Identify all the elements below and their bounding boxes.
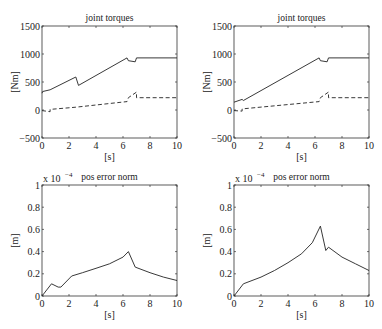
chart-panel-4: 024681000.20.40.60.81pos error norm[s][m… [201, 171, 374, 320]
y-axis-label: [Nm] [9, 71, 20, 93]
chart-title: joint torques [277, 13, 326, 23]
y-tick-label: 0.4 [220, 246, 233, 257]
data-series-line [234, 226, 369, 296]
x-tick-label: 8 [340, 140, 345, 151]
y-tick-label: 0 [35, 291, 40, 302]
chart-panel-1: 0246810−500050010001500joint torques[s][… [9, 13, 182, 162]
axes-box [42, 185, 177, 296]
figure: 0246810−500050010001500joint torques[s][… [0, 0, 382, 329]
x-tick-label: 2 [67, 298, 72, 309]
y-tick-label: 1000 [212, 49, 232, 60]
x-tick-label: 4 [286, 140, 291, 151]
x-tick-label: 6 [121, 140, 126, 151]
x-tick-label: 4 [94, 140, 99, 151]
y-tick-label: −500 [211, 133, 232, 144]
y-axis-label: [Nm] [201, 71, 212, 93]
axes-box [234, 26, 369, 138]
x-tick-label: 10 [172, 298, 182, 309]
chart-panel-3: 024681000.20.40.60.81pos error norm[s][m… [9, 171, 182, 320]
x-tick-label: 10 [172, 140, 182, 151]
x-tick-label: 4 [94, 298, 99, 309]
x-tick-label: 0 [232, 298, 237, 309]
y-tick-label: 1500 [20, 21, 40, 32]
y-tick-label: 0 [35, 105, 40, 116]
x-tick-label: 8 [340, 298, 345, 309]
x-tick-label: 0 [40, 298, 45, 309]
data-series-line [234, 58, 369, 102]
svg-text:−4: −4 [65, 171, 73, 179]
axes-box [42, 26, 177, 138]
chart-title: pos error norm [273, 172, 330, 182]
x-tick-label: 10 [364, 298, 374, 309]
x-tick-label: 8 [148, 298, 153, 309]
y-tick-label: 1 [35, 180, 40, 191]
chart-title: joint torques [85, 13, 134, 23]
chart-title: pos error norm [81, 172, 138, 182]
x-tick-label: 4 [286, 298, 291, 309]
y-tick-label: 0 [227, 105, 232, 116]
x-tick-label: 6 [313, 298, 318, 309]
x-tick-label: 0 [232, 140, 237, 151]
x-tick-label: 6 [121, 298, 126, 309]
y-tick-label: 0.2 [28, 268, 41, 279]
y-tick-label: 0 [227, 291, 232, 302]
y-tick-label: 1 [227, 180, 232, 191]
y-axis-label: [m] [201, 233, 212, 247]
y-tick-label: 0.8 [28, 202, 41, 213]
svg-text:−4: −4 [257, 171, 265, 179]
x-tick-label: 8 [148, 140, 153, 151]
x-axis-label: [s] [296, 151, 307, 162]
data-series-line [42, 252, 177, 296]
y-tick-label: 0.8 [220, 202, 233, 213]
x-tick-label: 10 [364, 140, 374, 151]
x-tick-label: 0 [40, 140, 45, 151]
y-tick-label: −500 [19, 133, 40, 144]
x-tick-label: 6 [313, 140, 318, 151]
y-tick-label: 1000 [20, 49, 40, 60]
y-multiplier-label: x 10 [43, 173, 61, 184]
data-series-line [234, 92, 369, 111]
y-multiplier-label: x 10 [235, 173, 253, 184]
x-axis-label: [s] [104, 309, 115, 320]
y-tick-label: 500 [217, 77, 232, 88]
y-axis-label: [m] [9, 233, 20, 247]
x-axis-label: [s] [104, 151, 115, 162]
data-series-line [42, 92, 177, 112]
data-series-line [42, 58, 177, 93]
chart-panel-2: 0246810−500050010001500joint torques[s][… [201, 13, 374, 162]
x-tick-label: 2 [259, 140, 264, 151]
y-tick-label: 0.4 [28, 246, 41, 257]
x-axis-label: [s] [296, 309, 307, 320]
x-tick-label: 2 [67, 140, 72, 151]
y-tick-label: 1500 [212, 21, 232, 32]
y-tick-label: 0.2 [220, 268, 233, 279]
y-tick-label: 0.6 [220, 224, 233, 235]
y-tick-label: 0.6 [28, 224, 41, 235]
x-tick-label: 2 [259, 298, 264, 309]
y-tick-label: 500 [25, 77, 40, 88]
